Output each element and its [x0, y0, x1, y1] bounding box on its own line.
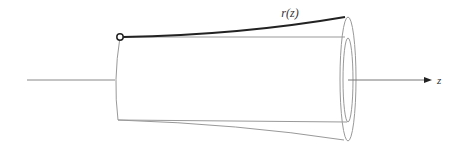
tube-bottom-flare-edge — [118, 120, 344, 140]
radius-origin-marker — [117, 34, 123, 40]
axis-arrowhead-icon — [424, 77, 432, 83]
radius-label: r(z) — [281, 6, 298, 20]
tube-diagram: r(z) z — [0, 0, 462, 149]
axis-label: z — [436, 74, 442, 86]
left-end-cap — [116, 37, 120, 120]
radius-curve — [123, 17, 345, 37]
